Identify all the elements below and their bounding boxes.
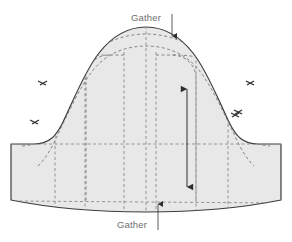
pattern-schematic-svg: Gather Gather: [0, 0, 292, 242]
pattern-diagram: Gather Gather: [0, 0, 292, 242]
gather-label-bottom: Gather: [117, 219, 147, 230]
gather-label-top: Gather: [131, 12, 161, 23]
notch-marks-left: [30, 81, 47, 124]
notch-marks-right: [231, 81, 254, 117]
